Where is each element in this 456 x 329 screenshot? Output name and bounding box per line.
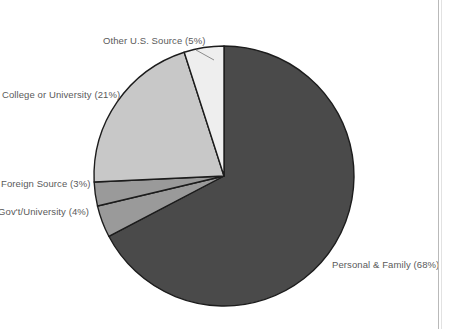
page-edge-rule — [438, 0, 439, 329]
pie-label-foreign-source: Foreign Source (3%) — [1, 178, 91, 190]
pie-label-us-college-or-university: S. College or University (21%) — [0, 89, 120, 101]
pie-label-other-us-source: Other U.S. Source (5%) — [103, 35, 206, 47]
chart-page: Other U.S. Source (5%) S. College or Uni… — [0, 0, 456, 329]
pie-slice-group — [94, 46, 354, 306]
pie-label-foreign-govt-university: n Gov't/University (4%) — [0, 206, 89, 218]
pie-label-personal-and-family: Personal & Family (68%) — [332, 259, 439, 271]
pie-chart: Other U.S. Source (5%) S. College or Uni… — [0, 0, 456, 329]
page-edge-rule-secondary — [441, 0, 442, 329]
pie-chart-graphic — [0, 0, 456, 329]
